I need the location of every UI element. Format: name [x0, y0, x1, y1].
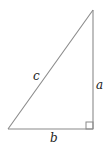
right-triangle-diagram: c a b [0, 0, 112, 151]
hypotenuse-c [8, 10, 93, 129]
right-angle-marker [86, 122, 93, 129]
label-a: a [96, 78, 103, 92]
label-b: b [50, 131, 58, 145]
label-c: c [33, 69, 40, 83]
